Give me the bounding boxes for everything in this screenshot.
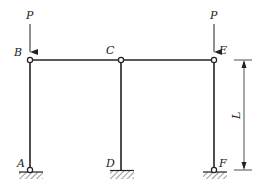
dimension-label-L: L bbox=[230, 112, 243, 120]
hinge-E-icon bbox=[211, 57, 216, 62]
support-D bbox=[110, 171, 134, 180]
node-label-B: B bbox=[13, 46, 22, 59]
hinge-F-icon bbox=[211, 167, 216, 172]
node-label-E: E bbox=[218, 44, 227, 57]
node-label-D: D bbox=[105, 157, 115, 170]
node-label-F: F bbox=[218, 157, 227, 170]
support-A bbox=[19, 172, 43, 179]
load-label-E: P bbox=[209, 9, 218, 22]
hinge-B-icon bbox=[27, 57, 32, 62]
hinge-A-icon bbox=[27, 167, 32, 172]
frame-diagram: P P B C E A D F L bbox=[0, 0, 263, 190]
node-label-C: C bbox=[106, 44, 115, 57]
support-F bbox=[203, 172, 227, 179]
node-label-A: A bbox=[16, 157, 25, 170]
load-label-B: P bbox=[25, 9, 34, 22]
hinge-C-icon bbox=[118, 57, 123, 62]
